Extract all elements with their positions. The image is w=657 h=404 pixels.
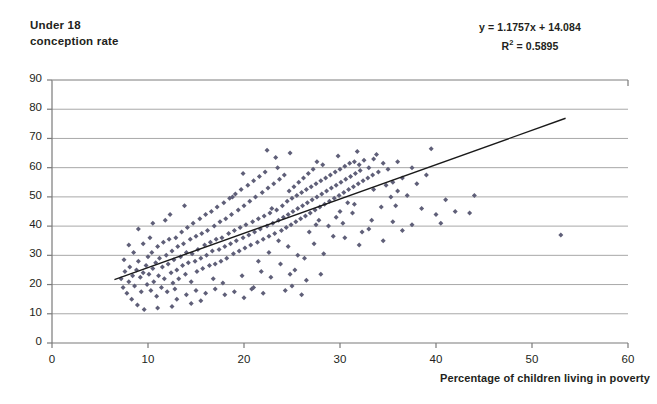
data-point [323,175,328,180]
data-point [302,256,307,261]
data-point [174,297,179,302]
data-point [261,237,266,242]
data-point [226,231,231,236]
data-point [388,194,393,199]
data-point [266,250,271,255]
data-point [155,305,160,310]
data-point [236,208,241,213]
data-point [170,248,175,253]
y-tick-label: 0 [8,335,42,347]
data-point [255,240,260,245]
data-point [357,243,362,248]
data-point [347,161,352,166]
data-point [193,259,198,264]
data-point [345,200,350,205]
data-point [239,187,244,192]
data-point [320,162,325,167]
data-point [269,206,274,211]
data-point [207,263,212,268]
data-point [200,266,205,271]
data-point [341,190,346,195]
data-point [379,205,384,210]
scatter-chart: Under 18 conception rate y = 1.1757x + 1… [0,0,657,404]
data-point [352,159,357,164]
data-point [365,175,370,180]
data-point [194,288,199,293]
data-point [410,165,415,170]
data-point [141,241,146,246]
data-point [139,289,144,294]
data-point [352,202,357,207]
data-point [290,209,295,214]
data-point [203,291,208,296]
data-point [186,260,191,265]
x-tick-label: 30 [320,353,360,365]
y-tick-label: 40 [8,218,42,230]
data-point [122,257,127,262]
data-point [213,262,218,267]
data-point [292,267,297,272]
data-point [267,210,272,215]
data-point [240,273,245,278]
data-point [298,216,303,221]
data-point [336,153,341,158]
data-point [273,155,278,160]
x-tick-label: 10 [128,353,168,365]
data-point [303,213,308,218]
data-point [261,291,266,296]
data-point [142,307,147,312]
data-point [188,237,193,242]
data-point [260,190,265,195]
data-point [390,219,395,224]
data-point [305,200,310,205]
data-point [211,276,216,281]
data-point [308,210,313,215]
data-point [295,253,300,258]
data-point [343,177,348,182]
data-point [229,212,234,217]
data-point [434,212,439,217]
data-point [126,279,131,284]
data-point [228,241,233,246]
data-point [198,298,203,303]
data-point [198,256,203,261]
data-point [155,244,160,249]
data-point [334,215,339,220]
data-point [348,174,353,179]
data-point [136,227,141,232]
data-point [326,224,331,229]
data-point [340,221,345,226]
data-point [148,288,153,293]
data-point [164,253,169,258]
data-point [395,159,400,164]
data-point [283,288,288,293]
data-point [189,279,194,284]
data-point [245,183,250,188]
data-point [288,151,293,156]
data-point [357,162,362,167]
data-point [356,181,361,186]
y-tick-label: 10 [8,306,42,318]
data-point [184,292,189,297]
data-point [222,244,227,249]
data-point [262,213,267,218]
x-tick-label: 20 [224,353,264,365]
data-point [318,178,323,183]
data-point [122,269,127,274]
data-point [314,159,319,164]
data-point [266,234,271,239]
data-point [306,171,311,176]
data-point [242,203,247,208]
data-point [371,156,376,161]
data-point [282,172,287,177]
data-point [147,235,152,240]
data-point [172,286,177,291]
data-point [124,291,129,296]
data-point [285,199,290,204]
data-point [204,253,209,258]
data-point [126,243,131,248]
data-point [214,237,219,242]
data-point [376,170,381,175]
data-point [295,206,300,211]
data-point [212,224,217,229]
